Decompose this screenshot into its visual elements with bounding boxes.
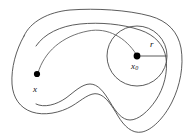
inner-curve-boundary — [36, 23, 167, 120]
label-point-x0-subscript: 0 — [135, 65, 138, 71]
label-radius-r: r — [150, 40, 154, 49]
label-point-x0: x0 — [131, 62, 138, 71]
open-set-boundary — [12, 9, 182, 132]
point-x-dot — [34, 71, 40, 77]
label-point-x: x — [33, 85, 37, 94]
path-from-x-to-x0 — [38, 30, 136, 73]
diagram-svg — [0, 0, 193, 140]
figure-container: x x0 r — [0, 0, 193, 140]
point-x0-dot — [134, 53, 141, 60]
